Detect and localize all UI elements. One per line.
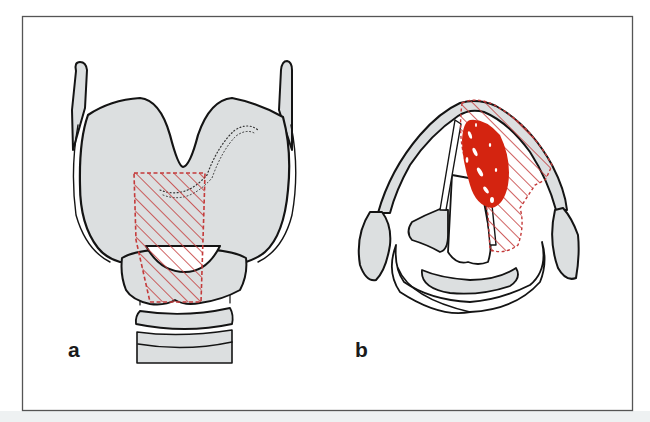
figure-canvas	[0, 0, 650, 422]
panel-label-a: a	[68, 339, 80, 360]
panel-label-b: b	[355, 339, 368, 360]
